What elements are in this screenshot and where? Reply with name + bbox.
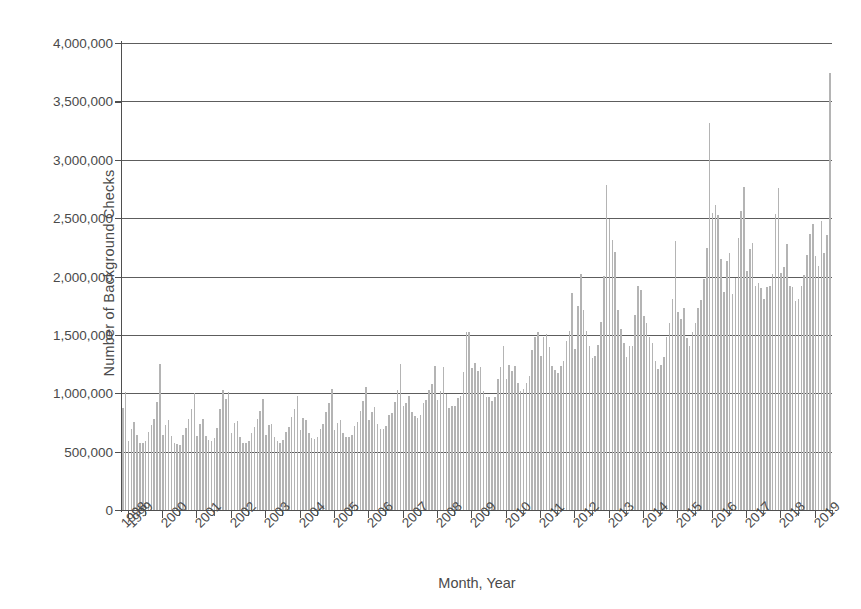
x-tick-label: 2000 [158, 499, 190, 531]
x-tick-label: 2001 [192, 499, 224, 531]
y-tick-mark [115, 43, 121, 44]
x-tick-label: 2012 [570, 499, 602, 531]
x-axis-tick-labels: 1998199920002001200220032004200520062007… [0, 0, 861, 609]
x-tick-label: 2017 [742, 499, 774, 531]
x-tick-label: 2009 [467, 499, 499, 531]
x-tick-label: 2004 [296, 499, 328, 531]
y-tick-mark [115, 452, 121, 453]
x-tick-label: 2016 [708, 499, 740, 531]
x-tick-label: 2013 [605, 499, 637, 531]
x-tick-label: 2010 [502, 499, 534, 531]
x-tick-label: 2007 [399, 499, 431, 531]
background-checks-bar-chart: Number of Background Checks 0500,0001,00… [0, 0, 861, 609]
x-tick-label: 2014 [639, 499, 671, 531]
y-tick-mark [115, 277, 121, 278]
x-tick-label: 2011 [536, 499, 567, 530]
x-axis-title: Month, Year [122, 575, 832, 591]
x-tick-label: 2015 [673, 499, 705, 531]
x-tick-label: 2006 [364, 499, 396, 531]
y-tick-mark [115, 218, 121, 219]
y-tick-mark [115, 335, 121, 336]
y-tick-mark [115, 393, 121, 394]
x-tick-label: 2019 [811, 499, 843, 531]
x-tick-label: 2018 [776, 499, 808, 531]
x-tick-label: 2002 [227, 499, 259, 531]
x-tick-label: 2008 [433, 499, 465, 531]
x-tick-label: 2003 [261, 499, 293, 531]
x-tick-label: 2005 [330, 499, 362, 531]
y-tick-mark [115, 510, 121, 511]
y-tick-mark [115, 101, 121, 102]
y-tick-mark [115, 160, 121, 161]
